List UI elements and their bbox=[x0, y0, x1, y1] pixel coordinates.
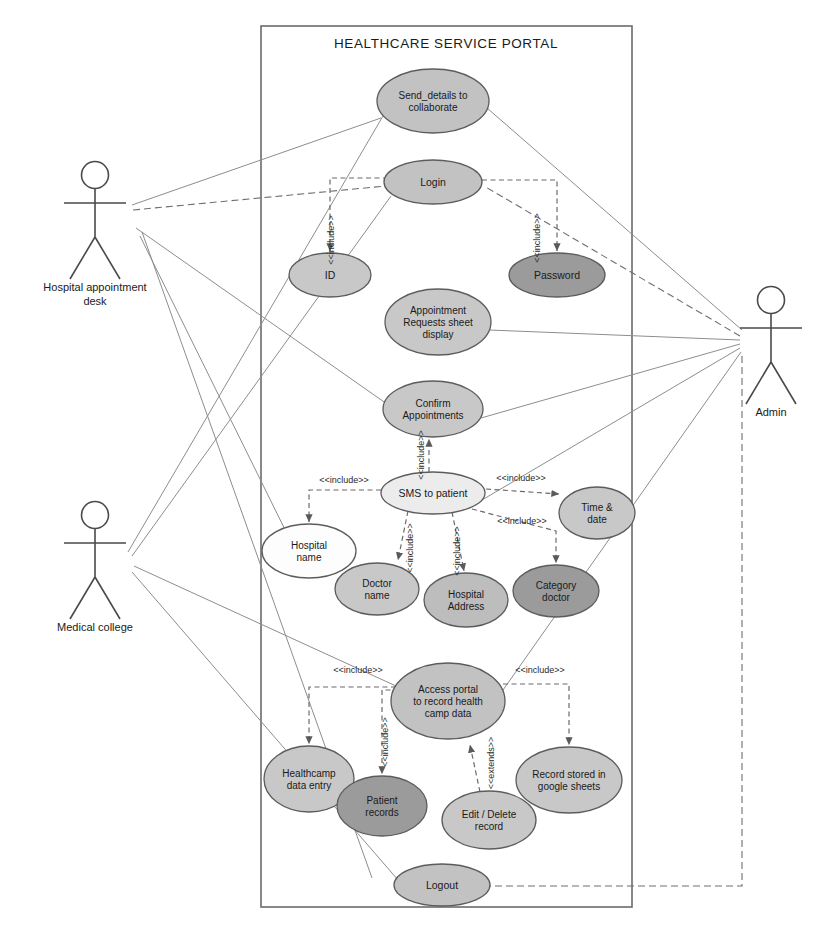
use-case-hospital_name[interactable]: Hospitalname bbox=[262, 524, 356, 578]
system-title: HEALTHCARE SERVICE PORTAL bbox=[334, 36, 558, 51]
use-case-layer: Send_details tocollaborateLoginIDPasswor… bbox=[262, 69, 635, 906]
assoc-admin-send-details bbox=[487, 108, 742, 330]
use-case-category_doc[interactable]: Categorydoctor bbox=[513, 565, 599, 617]
actor-medical_college[interactable]: Medical college bbox=[57, 502, 133, 634]
use-case-ellipse[interactable] bbox=[391, 663, 505, 739]
include-portal-to-google-sheets bbox=[503, 684, 569, 745]
assoc-college-send-details bbox=[128, 116, 383, 552]
stereotype-label: <<include>> bbox=[532, 213, 542, 263]
use-case-ellipse[interactable] bbox=[377, 69, 489, 133]
use-case-ellipse[interactable] bbox=[262, 524, 356, 578]
stereotype-label: <<include>> bbox=[405, 523, 415, 573]
actor-body-icon bbox=[64, 529, 126, 619]
use-case-ellipse[interactable] bbox=[516, 747, 622, 813]
actor-label: Medical college bbox=[57, 621, 133, 633]
use-case-logout[interactable]: Logout bbox=[394, 864, 490, 906]
actor-head-icon bbox=[82, 162, 109, 189]
assoc-admin-appt bbox=[489, 330, 740, 340]
actor-label: desk bbox=[83, 295, 107, 307]
use-case-ellipse[interactable] bbox=[381, 472, 485, 514]
use-case-appt_requests[interactable]: AppointmentRequests sheetdisplay bbox=[385, 289, 491, 355]
actor-hospital_desk[interactable]: Hospital appointmentdesk bbox=[43, 162, 146, 308]
use-case-ellipse[interactable] bbox=[424, 573, 508, 627]
diagram-svg: HEALTHCARE SERVICE PORTAL bbox=[0, 0, 825, 925]
use-case-ellipse[interactable] bbox=[383, 381, 483, 437]
use-case-ellipse[interactable] bbox=[509, 253, 605, 297]
use-case-login[interactable]: Login bbox=[384, 160, 482, 204]
use-case-sms_patient[interactable]: SMS to patient bbox=[381, 472, 485, 514]
use-case-password[interactable]: Password bbox=[509, 253, 605, 297]
assoc-college-logout bbox=[132, 572, 398, 880]
stereotype-label: <<include>> bbox=[416, 430, 426, 480]
actor-body-icon bbox=[64, 189, 126, 279]
use-case-confirm_appt[interactable]: ConfirmAppointments bbox=[383, 381, 483, 437]
assoc-desk-login bbox=[133, 186, 386, 210]
use-case-patient_rec[interactable]: Patientrecords bbox=[337, 776, 427, 836]
actor-head-icon bbox=[82, 502, 109, 529]
use-case-ellipse[interactable] bbox=[513, 565, 599, 617]
stereotype-label: <<include>> bbox=[326, 215, 336, 265]
use-case-edit_delete[interactable]: Edit / Deleterecord bbox=[442, 791, 536, 849]
use-case-ellipse[interactable] bbox=[384, 160, 482, 204]
stereotype-label: <<extends>> bbox=[486, 737, 496, 790]
use-case-access_portal[interactable]: Access portalto record healthcamp data bbox=[391, 663, 505, 739]
stereotype-label: <<include>> bbox=[452, 526, 462, 576]
use-case-ellipse[interactable] bbox=[442, 791, 536, 849]
actor-admin[interactable]: Admin bbox=[740, 287, 802, 419]
include-login-to-password bbox=[482, 180, 557, 251]
stereotype-label: <<include>> bbox=[497, 516, 547, 526]
actor-body-icon bbox=[740, 314, 802, 404]
use-case-record_sheets[interactable]: Record stored ingoogle sheets bbox=[516, 747, 622, 813]
stereotype-label: <<include>> bbox=[319, 475, 369, 485]
use-case-time_date[interactable]: Time &date bbox=[559, 487, 635, 539]
use-case-send_details[interactable]: Send_details tocollaborate bbox=[377, 69, 489, 133]
use-case-ellipse[interactable] bbox=[394, 864, 490, 906]
assoc-desk-send-details bbox=[132, 118, 381, 205]
stereotype-label: <<include>> bbox=[333, 665, 383, 675]
actor-label: Hospital appointment bbox=[43, 281, 146, 293]
use-case-diagram-canvas: HEALTHCARE SERVICE PORTAL bbox=[0, 0, 825, 925]
actor-head-icon bbox=[758, 287, 785, 314]
use-case-ellipse[interactable] bbox=[385, 289, 491, 355]
include-sms-to-hospital-name bbox=[309, 490, 381, 522]
use-case-ellipse[interactable] bbox=[337, 776, 427, 836]
use-case-ellipse[interactable] bbox=[559, 487, 635, 539]
assoc-admin-confirm bbox=[481, 344, 740, 418]
stereotype-label: <<include>> bbox=[380, 717, 390, 767]
extends-edit-delete-to-portal bbox=[470, 745, 480, 792]
stereotype-label: <<include>> bbox=[515, 665, 565, 675]
actor-label: Admin bbox=[755, 406, 786, 418]
stereotype-label: <<include>> bbox=[496, 473, 546, 483]
use-case-hospital_addr[interactable]: HospitalAddress bbox=[424, 573, 508, 627]
